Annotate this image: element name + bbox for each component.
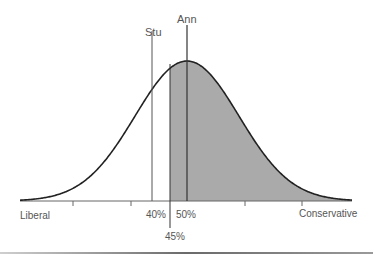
liberal-label: Liberal bbox=[20, 211, 50, 221]
pct45-label: 45% bbox=[165, 232, 185, 242]
conservative-label: Conservative bbox=[299, 209, 357, 219]
pct40-label: 40% bbox=[146, 210, 166, 220]
stu-label: Stu bbox=[145, 27, 162, 38]
shaded-area bbox=[170, 61, 352, 201]
pct50-label: 50% bbox=[176, 210, 196, 220]
bottom-rule bbox=[0, 252, 373, 254]
axis-ticks bbox=[73, 201, 302, 206]
ann-label: Ann bbox=[177, 14, 197, 25]
